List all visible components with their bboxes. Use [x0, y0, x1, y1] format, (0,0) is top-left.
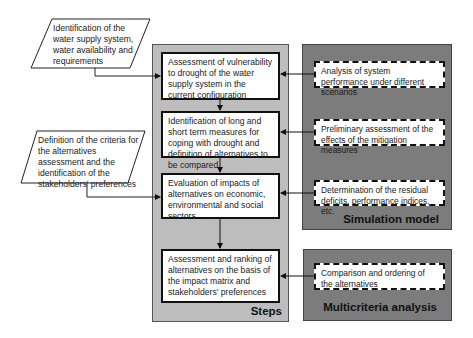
mca-box-comparison-ordering: Comparison and ordering of the alternati…: [314, 263, 445, 290]
step-box-impact-evaluation: Evaluation of impacts of alternatives on…: [161, 173, 280, 219]
input-text-1: Identification of the water supply syste…: [53, 23, 145, 67]
step-box-vulnerability-assessment: Assessment of vulnerability to drought o…: [161, 52, 280, 100]
input-text-2: Definition of the criteria for the alter…: [38, 135, 142, 190]
step-box-ranking: Assessment and ranking of alternatives o…: [161, 249, 280, 303]
sim-box-performance-analysis: Analysis of system performance under dif…: [314, 61, 445, 88]
sim-box-residual-deficits: Determination of the residual deficits, …: [314, 180, 445, 206]
sim-box-preliminary-assessment: Preliminary assessment of the effects of…: [314, 119, 445, 146]
step-box-measures-identification: Identification of long and short term me…: [161, 111, 280, 158]
input-arrow-1: [95, 68, 160, 76]
